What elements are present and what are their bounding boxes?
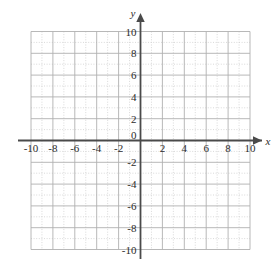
x-axis-tick-label: 2	[160, 142, 166, 154]
origin-label: 0	[131, 129, 137, 141]
y-axis-tick-label: -10	[122, 244, 137, 256]
y-axis-tick-label: 10	[126, 26, 138, 38]
x-axis-tick-label: -10	[24, 142, 39, 154]
y-axis-tick-label: -4	[127, 178, 137, 190]
x-axis-tick-label: -6	[70, 142, 80, 154]
y-axis-tick-label: 8	[131, 47, 137, 59]
x-axis-tick-label: 8	[225, 142, 231, 154]
x-axis-tick-label: 4	[182, 142, 188, 154]
x-axis-tick-label: 10	[245, 142, 257, 154]
y-axis-tick-label: -6	[127, 200, 137, 212]
x-axis-tick-label: 6	[203, 142, 209, 154]
y-axis-tick-label: -2	[127, 156, 136, 168]
x-axis-tick-label: -2	[114, 142, 123, 154]
x-axis-tick-label: -8	[48, 142, 58, 154]
y-axis-tick-label: 6	[131, 69, 137, 81]
coordinate-plane-svg: -10-8-6-4-20246810 108642-2-4-6-8-10 x y	[0, 0, 280, 271]
x-axis-name-label: x	[265, 135, 271, 147]
y-axis-tick-label: 4	[131, 91, 137, 103]
y-axis-name-label: y	[130, 7, 136, 19]
y-axis-tick-label: -8	[127, 222, 137, 234]
coordinate-plane-figure: -10-8-6-4-20246810 108642-2-4-6-8-10 x y	[0, 0, 280, 271]
x-axis-tick-label: -4	[92, 142, 102, 154]
y-axis-tick-label: 2	[131, 113, 137, 125]
